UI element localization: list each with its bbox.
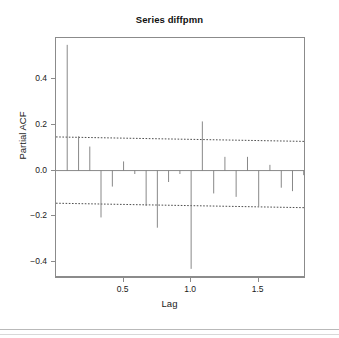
page-edge-line [0, 329, 339, 330]
confidence-band-lower [56, 203, 305, 208]
x-tick-mark [190, 277, 191, 282]
y-tick-label: −0.2 [30, 210, 47, 220]
pacf-plot-figure: Series diffpmn Partial ACF 0.40.20.0−0.2… [0, 0, 339, 320]
y-tick-label: 0.0 [35, 165, 47, 175]
chart-title: Series diffpmn [0, 14, 339, 25]
plot-area [55, 37, 305, 277]
pacf-spikes-svg [56, 38, 305, 277]
y-tick-label: 0.2 [35, 119, 47, 129]
x-tick-mark [123, 277, 124, 282]
x-tick-label: 1.0 [184, 284, 196, 294]
page-canvas: Series diffpmn Partial ACF 0.40.20.0−0.2… [0, 0, 339, 338]
x-axis-line [55, 277, 305, 278]
confidence-band-upper [56, 137, 305, 142]
x-axis: 0.51.01.5 [55, 277, 305, 287]
y-tick-label: −0.4 [30, 256, 47, 266]
y-axis-title: Partial ACF [17, 96, 28, 176]
x-tick-label: 0.5 [117, 284, 129, 294]
y-tick-label: 0.4 [35, 73, 47, 83]
x-tick-mark [258, 277, 259, 282]
x-tick-label: 1.5 [252, 284, 264, 294]
x-axis-title: Lag [0, 298, 339, 309]
page-edge-line-secondary [0, 334, 339, 335]
